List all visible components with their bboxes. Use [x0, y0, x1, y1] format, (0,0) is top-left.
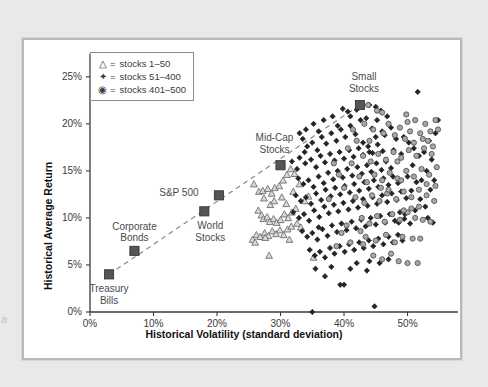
y-tick-label-4: 20%	[48, 118, 82, 129]
benchmark-label-corporate-bonds: Corporate Bonds	[94, 221, 174, 244]
legend-equals-0: =	[109, 58, 120, 69]
y-axis-title: Historical Average Return	[42, 162, 54, 290]
y-tick-label-0: 0%	[48, 306, 82, 317]
benchmark-label-treasury-bills: Treasury Bills	[69, 283, 149, 306]
y-tick-label-3: 15%	[48, 165, 82, 176]
y-tick-label-5: 25%	[48, 71, 82, 82]
benchmark-treasury-bills	[104, 270, 113, 279]
triangle-up-icon: △	[96, 58, 109, 69]
legend-item-stocks-51-400: ✦ = stocks 51–400	[96, 70, 186, 83]
legend-item-stocks-401-500: ◉ = stocks 401–500	[96, 83, 186, 96]
legend-equals-2: =	[109, 84, 120, 95]
legend-label-2: stocks 401–500	[120, 84, 187, 95]
legend-item-stocks-1-50: △ = stocks 1–50	[96, 57, 186, 70]
x-tick-label-0: 0%	[70, 318, 110, 329]
benchmark-world-stocks	[200, 207, 209, 216]
figure-container: a △ = stocks 1–50 ✦ = stocks 51–400 ◉ = …	[0, 0, 488, 387]
benchmark-label-mid-cap-stocks: Mid-Cap Stocks	[235, 132, 315, 155]
diamond-icon: ✦	[96, 71, 109, 82]
legend-equals-1: =	[109, 71, 120, 82]
margin-partial-glyph: a	[1, 313, 6, 325]
legend-label-1: stocks 51–400	[120, 71, 181, 82]
circle-icon: ◉	[96, 84, 109, 95]
benchmark-small-stocks	[355, 100, 364, 109]
y-tick-label-2: 10%	[48, 212, 82, 223]
chart-legend: △ = stocks 1–50 ✦ = stocks 51–400 ◉ = st…	[90, 52, 194, 101]
x-tick-label-2: 20%	[197, 318, 237, 329]
x-tick-label-5: 50%	[388, 318, 428, 329]
benchmark-label-s-p-500: S&P 500	[139, 187, 219, 199]
benchmark-label-world-stocks: World Stocks	[170, 220, 250, 243]
chart-panel: △ = stocks 1–50 ✦ = stocks 51–400 ◉ = st…	[22, 38, 462, 360]
x-tick-label-1: 10%	[134, 318, 174, 329]
x-tick-label-4: 40%	[324, 318, 364, 329]
x-axis-title: Historical Volatility (standard deviatio…	[24, 328, 464, 340]
y-tick-label-1: 5%	[48, 259, 82, 270]
legend-label-0: stocks 1–50	[120, 58, 171, 69]
benchmark-mid-cap-stocks	[276, 161, 285, 170]
benchmark-corporate-bonds	[130, 246, 139, 255]
benchmark-label-small-stocks: Small Stocks	[324, 71, 404, 94]
x-tick-label-3: 30%	[261, 318, 301, 329]
